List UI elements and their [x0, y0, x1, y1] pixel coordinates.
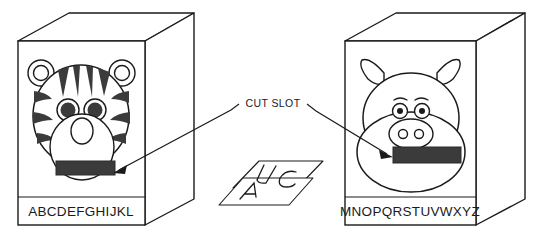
figure-canvas: ABCDEFGHIJKL — [0, 0, 546, 240]
pig-nostril-left — [399, 130, 408, 139]
right-box: MNOPQRSTUVWXYZ — [340, 13, 525, 225]
right-box-alphabet-label: MNOPQRSTUVWXYZ — [340, 204, 480, 219]
left-box: ABCDEFGHIJKL — [18, 13, 194, 225]
pig-snout — [389, 119, 433, 149]
left-box-alphabet-label: ABCDEFGHIJKL — [28, 204, 134, 219]
pig-face — [357, 60, 465, 192]
cut-slot-label: CUT SLOT — [246, 97, 301, 109]
right-box-side-face — [476, 13, 525, 225]
letter-cards — [219, 161, 323, 205]
pig-nostril-right — [415, 130, 424, 139]
pig-eye-left — [393, 104, 408, 119]
cut-slot-leader-right — [307, 104, 316, 111]
drawing-surface: ABCDEFGHIJKL — [0, 0, 546, 240]
cut-slot-leader-left — [231, 104, 239, 110]
tiger-cut-slot — [56, 161, 115, 175]
tiger-nose — [71, 118, 93, 144]
left-box-side-face — [145, 13, 194, 225]
pig-cut-slot — [393, 147, 461, 163]
pig-eye-right — [415, 104, 430, 119]
